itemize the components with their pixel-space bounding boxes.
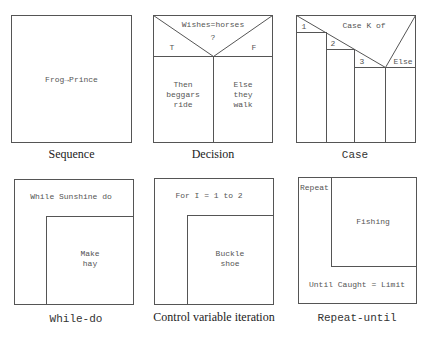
decision-else-line-3: walk [233,100,252,109]
decision-else-line-1: Else [233,80,252,89]
decision-diagram: Wishes=horses ? T F Then beggars ride El… [154,16,273,162]
sequence-statement: Frog→Prince [45,75,98,84]
case-option-2: 2 [331,39,336,48]
decision-false-label: F [252,43,257,52]
decision-condition: Wishes=horses [182,20,245,29]
decision-then-line-3: ride [173,100,192,109]
control-variable-condition: For I = 1 to 2 [175,191,242,200]
control-variable-diagram: For I = 1 to 2 Buckle shoe Control varia… [153,179,274,325]
repeat-until-body: Fishing [356,217,390,226]
repeat-until-caption: Repeat-until [317,312,396,324]
while-do-condition: While Sunshine do [30,192,112,201]
decision-then-line-1: Then [173,80,192,89]
control-variable-body-line-1: Buckle [216,249,245,258]
while-do-body-line-1: Make [80,249,99,258]
control-variable-caption: Control variable iteration [153,310,274,324]
decision-true-label: T [170,43,175,52]
while-do-body-line-2: hay [83,259,98,268]
decision-else-line-2: they [233,90,252,99]
repeat-until-condition: Until Caught = Limit [309,280,405,289]
case-option-3: 3 [360,57,365,66]
case-header: Case K of [342,21,385,30]
case-caption: Case [342,149,368,161]
case-option-else: Else [393,57,412,66]
decision-question-mark: ? [211,33,216,42]
decision-caption: Decision [192,147,235,161]
repeat-until-diagram: Repeat Fishing Until Caught = Limit Repe… [299,178,417,325]
control-variable-body-line-2: shoe [220,259,239,268]
while-do-caption: While-do [50,313,103,325]
nassi-shneiderman-figure: Frog→Prince Sequence Wishes=horses ? T F… [0,0,438,338]
decision-then-line-2: beggars [166,90,200,99]
sequence-diagram: Frog→Prince Sequence [12,16,132,162]
case-diagram: Case K of 1 2 3 Else Case [297,16,416,162]
while-do-diagram: While Sunshine do Make hay While-do [15,180,134,326]
case-option-1: 1 [302,22,307,31]
case-box [297,16,416,143]
repeat-until-keyword: Repeat [300,183,329,192]
sequence-caption: Sequence [49,147,95,161]
